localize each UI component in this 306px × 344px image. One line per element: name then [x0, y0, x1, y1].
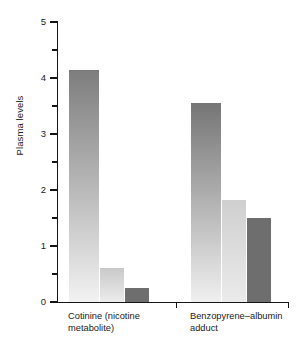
x-axis-group-label-1: Benzopyrene–albumin adduct [190, 311, 302, 334]
group-label-line-1: Benzopyrene–albumin [190, 311, 283, 321]
group-label-line-2: metabolite) [68, 323, 114, 333]
y-tick-label: 4 [26, 73, 46, 83]
bar [100, 268, 124, 302]
y-tick-major [50, 245, 57, 246]
bar [125, 288, 149, 302]
bar [222, 200, 246, 302]
bar [247, 218, 271, 302]
y-tick-label: 2 [26, 185, 46, 195]
bars-layer [57, 22, 289, 302]
y-tick-major [50, 21, 57, 22]
y-tick-label: 3 [26, 129, 46, 139]
bar [69, 70, 99, 302]
group-label-line-2: adduct [190, 323, 218, 333]
y-tick-major [50, 133, 57, 134]
y-tick-major [50, 301, 57, 302]
y-tick-major [50, 77, 57, 78]
bar [191, 103, 221, 302]
bar-chart: Plasma levels 543210 Cotinine (nicotine … [0, 0, 306, 344]
y-tick-label: 5 [26, 17, 46, 27]
y-axis-title: Plasma levels [14, 71, 25, 181]
x-axis-group-label-0: Cotinine (nicotine metabolite) [68, 311, 172, 334]
y-tick-major [50, 189, 57, 190]
y-tick-label: 0 [26, 297, 46, 307]
x-group-separator-tick [176, 302, 177, 308]
x-group-separator-tick [288, 302, 289, 308]
y-tick-label: 1 [26, 241, 46, 251]
group-label-line-1: Cotinine (nicotine [68, 311, 140, 321]
